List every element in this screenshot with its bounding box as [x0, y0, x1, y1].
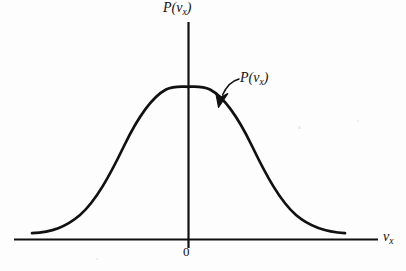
curve-annotation-label: P(vx)	[240, 71, 268, 87]
y-axis-title: P(vx)	[163, 1, 191, 17]
plot-canvas	[0, 0, 406, 271]
x-axis-title-subscript: x	[389, 236, 393, 246]
y-axis-title-close-paren: )	[187, 0, 192, 15]
curve-annotation-p: P	[240, 70, 249, 85]
origin-tick-label: 0	[183, 245, 190, 258]
annotation-leader-line	[223, 79, 240, 95]
velocity-distribution-figure: P(vx) P(vx) vx 0	[0, 0, 406, 271]
x-axis-title: vx	[383, 230, 393, 246]
y-axis-title-p: P	[163, 0, 172, 15]
curve-annotation-close-paren: )	[264, 70, 269, 85]
